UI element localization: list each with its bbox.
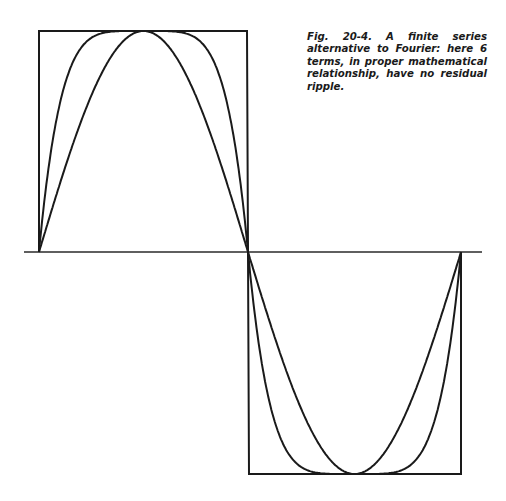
figure-caption: Fig. 20-4. A finite series alternative t… (307, 31, 487, 93)
